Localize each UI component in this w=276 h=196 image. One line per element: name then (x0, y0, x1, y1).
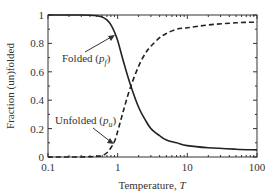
folded-annotation: Folded (pf) (62, 35, 115, 67)
x-tick-label: 100 (249, 161, 266, 173)
y-tick-label: 0.2 (30, 123, 44, 135)
plot-border (48, 15, 257, 157)
x-tick-label: 10 (182, 161, 194, 173)
y-tick-label: 0.8 (30, 37, 44, 49)
series-group (48, 15, 257, 157)
y-axis-ticks: 00.20.40.60.81 (30, 9, 257, 163)
plot-frame (48, 15, 257, 157)
folded-curve (48, 15, 257, 150)
y-axis-label: Fraction (un)folded (4, 43, 17, 129)
annotations: Folded (pf) Unfolded (pu) (55, 35, 116, 144)
unfolded-label: Unfolded (pu) (55, 114, 116, 129)
unfolded-arrow-line (93, 128, 111, 142)
y-tick-label: 1 (39, 9, 45, 21)
x-tick-label: 0.1 (41, 161, 55, 173)
x-minor-ticks (69, 15, 254, 157)
x-tick-label: 1 (115, 161, 121, 173)
x-axis-label: Temperature, T (118, 179, 186, 191)
folded-label: Folded (pf) (62, 52, 111, 67)
fraction-unfolded-chart: 00.20.40.60.81 0.1110100 Temperature, T … (0, 0, 276, 196)
unfolded-annotation: Unfolded (pu) (55, 114, 116, 144)
y-tick-label: 0.4 (30, 94, 44, 106)
y-tick-label: 0.6 (30, 66, 44, 78)
unfolded-arrow-head (107, 138, 114, 144)
unfolded-curve (48, 22, 257, 157)
folded-arrow-line (85, 36, 113, 52)
